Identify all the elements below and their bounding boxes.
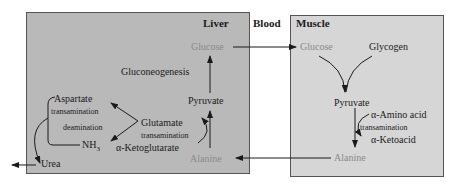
liver-glucose: Glucose (191, 41, 224, 52)
urea: Urea (41, 158, 60, 169)
liver-pyruvate: Pyruvate (188, 95, 224, 106)
alpha-amino-acid: α-Amino acid (371, 109, 427, 120)
aspartate: Aspartate (54, 93, 92, 104)
muscle-pyruvate: Pyruvate (334, 97, 370, 108)
alpha-ketoglutarate: α-Ketoglutarate (116, 142, 179, 153)
muscle-transamination-label: transamination (360, 123, 408, 132)
alpha-ketoacid: α-Ketoacid (371, 134, 416, 145)
muscle-glucose: Glucose (300, 41, 333, 52)
glutamate: Glutamate (141, 117, 183, 128)
blood-label: Blood (253, 17, 281, 29)
liver-alanine: Alanine (190, 153, 222, 164)
gluconeogenesis-label: Gluconeogenesis (121, 66, 189, 77)
glycogen: Glycogen (369, 41, 408, 52)
liver-label: Liver (203, 17, 229, 29)
deamination-label: deamination (63, 123, 103, 132)
transamination-left-label: transamination (51, 107, 99, 116)
nh3: NH3 (82, 139, 100, 153)
muscle-alanine: Alanine (334, 152, 366, 163)
muscle-label: Muscle (296, 17, 330, 29)
transamination-right-label: transamination (141, 131, 189, 140)
